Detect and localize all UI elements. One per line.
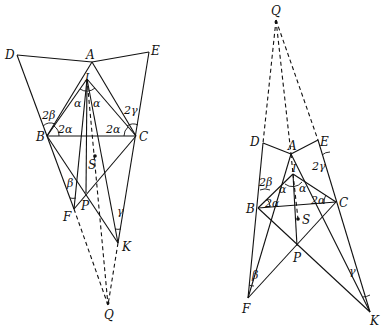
label-2alpha-B: 2α [264, 197, 280, 210]
label-alpha-left: α [279, 183, 287, 196]
label-F: F [241, 302, 251, 316]
figure-left: D A E I B C S P F K Q α α 2α 2α 2β 2γ β … [4, 44, 160, 322]
label-beta: β [251, 269, 258, 282]
segment-AK [291, 154, 370, 312]
dashed-IQ [87, 79, 108, 305]
label-F: F [62, 210, 72, 224]
segment-IP [86, 79, 87, 193]
label-Q: Q [271, 4, 281, 18]
label-D: D [4, 48, 15, 62]
segment-BK [258, 208, 370, 312]
label-2beta: 2β [41, 109, 55, 122]
label-gamma: γ [117, 205, 124, 218]
label-E: E [319, 135, 329, 149]
point-Q [275, 21, 278, 24]
label-Q: Q [104, 308, 114, 322]
dashed-FQ [74, 209, 108, 305]
label-I: I [84, 71, 90, 84]
label-P: P [80, 199, 90, 213]
label-beta: β [66, 177, 73, 190]
label-2alpha-C: 2α [105, 123, 121, 136]
label-E: E [150, 44, 160, 58]
label-alpha-left: α [74, 97, 82, 110]
segment-AE [92, 52, 149, 62]
arc-2alpha-C [124, 127, 128, 136]
label-K: K [121, 240, 132, 254]
dashed-KQ [108, 243, 118, 305]
label-P: P [292, 251, 302, 265]
arc-2gamma [322, 152, 330, 155]
dashed-QE [276, 20, 318, 140]
label-2gamma: 2γ [311, 160, 326, 173]
label-2alpha-B: 2α [57, 123, 73, 136]
label-K: K [369, 314, 380, 328]
label-C: C [139, 130, 148, 144]
label-alpha-right: α [299, 182, 307, 195]
segment-IP [293, 174, 297, 246]
label-D: D [249, 135, 260, 149]
point-Q [107, 302, 110, 305]
label-A: A [85, 48, 95, 62]
arc-gamma [363, 295, 370, 297]
arc-2beta [260, 189, 270, 190]
label-S: S [88, 158, 96, 172]
label-A: A [287, 139, 297, 153]
label-alpha-right: α [93, 97, 101, 110]
label-B: B [245, 202, 255, 216]
dashed-QD [263, 20, 276, 143]
label-B: B [35, 130, 45, 144]
label-I: I [291, 162, 297, 175]
label-C: C [339, 196, 348, 210]
label-2alpha-C: 2α [310, 194, 326, 207]
label-S: S [302, 213, 310, 227]
label-2beta: 2β [258, 176, 272, 189]
geometry-diagram: D A E I B C S P F K Q α α 2α 2α 2β 2γ β … [0, 0, 381, 335]
label-gamma: γ [349, 265, 356, 278]
segment-CF [248, 202, 336, 298]
segment-DA [263, 143, 291, 154]
segment-EK [318, 140, 370, 312]
point-S [296, 217, 300, 221]
figure-right: Q D A E I B C S P F K α α 2α 2α 2β 2γ β … [241, 4, 380, 328]
label-2gamma: 2γ [123, 104, 138, 117]
segment-DA [17, 55, 92, 62]
